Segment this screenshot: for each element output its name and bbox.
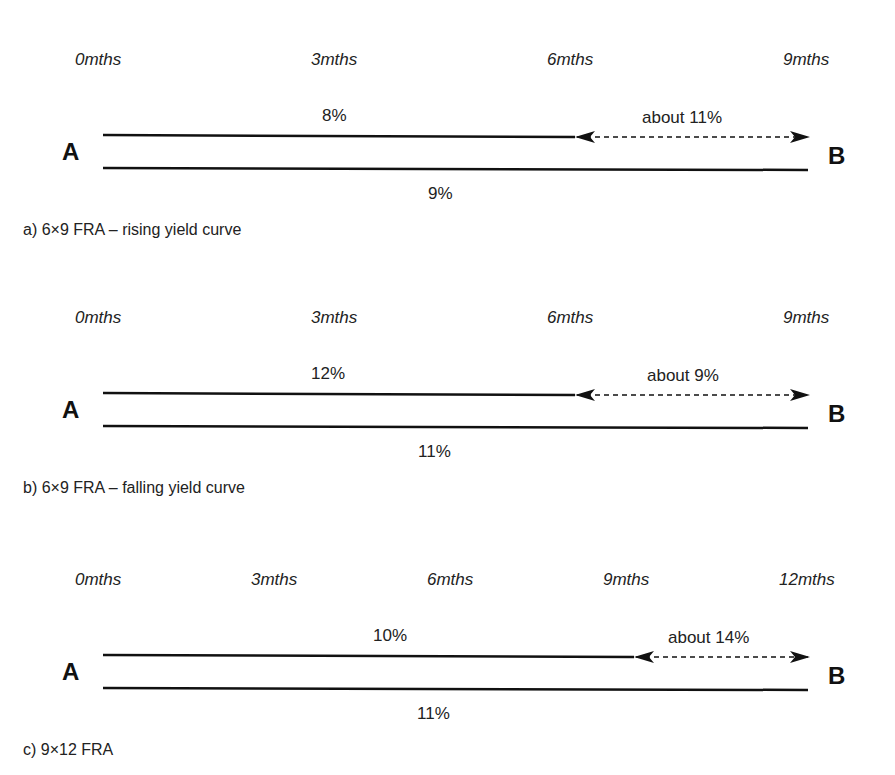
start-point-label: A: [62, 138, 79, 165]
panel-caption: c) 9×12 FRA: [23, 741, 114, 758]
end-point-label: B: [828, 662, 845, 689]
forward-rate-label: about 14%: [668, 628, 749, 647]
panel-b: 0mths3mths6mths9mths12%about 9%AB11%b) 6…: [23, 308, 845, 496]
time-tick-label: 3mths: [251, 570, 298, 589]
time-tick-label: 9mths: [603, 570, 650, 589]
fra-diagram: 0mths3mths6mths9mths8%about 11%AB9%a) 6×…: [0, 0, 895, 775]
panel-a: 0mths3mths6mths9mths8%about 11%AB9%a) 6×…: [23, 50, 845, 238]
start-point-label: A: [62, 396, 79, 423]
time-tick-label: 3mths: [311, 308, 358, 327]
lower-rate-label: 11%: [418, 442, 451, 461]
short-period-line: [103, 393, 575, 395]
short-period-line: [103, 135, 575, 137]
long-period-line: [103, 688, 808, 690]
end-point-label: B: [828, 142, 845, 169]
time-tick-label: 9mths: [783, 308, 830, 327]
upper-rate-label: 10%: [373, 626, 407, 645]
panel-caption: b) 6×9 FRA – falling yield curve: [23, 479, 245, 496]
short-period-line: [103, 655, 634, 657]
panel-caption: a) 6×9 FRA – rising yield curve: [23, 221, 241, 238]
time-tick-label: 12mths: [779, 570, 835, 589]
forward-rate-label: about 11%: [642, 108, 722, 127]
upper-rate-label: 8%: [322, 106, 347, 125]
end-point-label: B: [828, 400, 845, 427]
long-period-line: [103, 168, 808, 170]
long-period-line: [103, 426, 808, 428]
time-tick-label: 0mths: [75, 570, 122, 589]
time-tick-label: 6mths: [547, 50, 594, 69]
start-point-label: A: [62, 658, 79, 685]
upper-rate-label: 12%: [311, 364, 345, 383]
time-tick-label: 0mths: [75, 50, 122, 69]
time-tick-label: 9mths: [783, 50, 830, 69]
time-tick-label: 6mths: [547, 308, 594, 327]
time-tick-label: 3mths: [311, 50, 358, 69]
panel-c: 0mths3mths6mths9mths12mths10%about 14%AB…: [23, 570, 845, 758]
lower-rate-label: 11%: [417, 704, 450, 723]
forward-rate-label: about 9%: [647, 366, 719, 385]
lower-rate-label: 9%: [428, 184, 453, 203]
time-tick-label: 0mths: [75, 308, 122, 327]
time-tick-label: 6mths: [427, 570, 474, 589]
